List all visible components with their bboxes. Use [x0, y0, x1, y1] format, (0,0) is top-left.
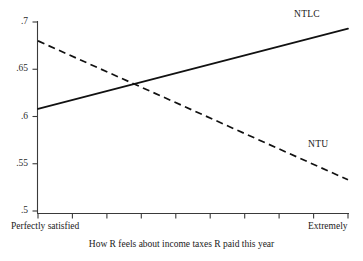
y-tick-label-4: .5	[2, 206, 28, 216]
series-label-ntu: NTU	[308, 140, 328, 150]
y-axis-ticks	[33, 22, 38, 211]
x-axis-left-label: Perfectly satisfied	[11, 222, 79, 232]
x-axis-ticks	[38, 214, 348, 219]
series-label-ntlc: NTLC	[294, 10, 320, 20]
y-tick-label-2: .6	[2, 112, 28, 122]
chart-container: .7 .65 .6 .55 .5 Perfectly satisfied Ext…	[0, 0, 363, 261]
x-axis-title: How R feels about income taxes R paid th…	[0, 240, 363, 250]
y-tick-label-1: .65	[2, 64, 28, 74]
y-tick-label-0: .7	[2, 17, 28, 27]
x-axis-right-label: Extremely	[308, 222, 348, 232]
y-tick-label-3: .55	[2, 159, 28, 169]
series-line-ntlc	[38, 29, 348, 109]
series-line-ntu	[38, 41, 348, 180]
